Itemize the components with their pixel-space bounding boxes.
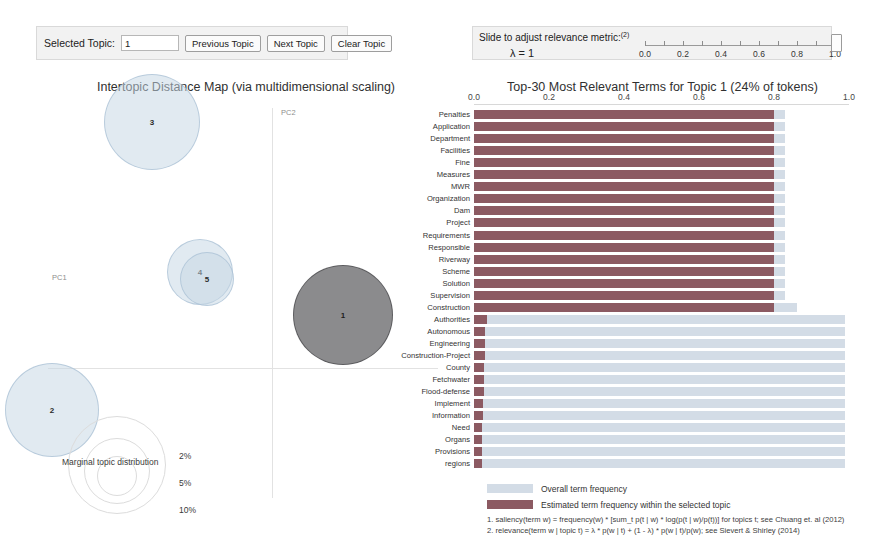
previous-topic-button[interactable]: Previous Topic xyxy=(185,35,261,52)
barchart-row[interactable]: Solution xyxy=(474,279,849,288)
relevance-slider[interactable]: 0.0 0.2 0.4 0.6 0.8 1.0 xyxy=(645,45,835,46)
barchart-row[interactable]: Engineering xyxy=(474,339,849,348)
barchart-term-label[interactable]: MWR xyxy=(451,182,470,191)
barchart-row[interactable]: Provisions xyxy=(474,447,849,456)
relevance-instruction-label: Slide to adjust relevance metric:(2) xyxy=(479,31,629,43)
barchart-row[interactable]: Organization xyxy=(474,194,849,203)
marginal-topic-distribution-label: Marginal topic distribution xyxy=(62,457,158,467)
barchart-term-label[interactable]: Engineering xyxy=(429,339,470,348)
barchart-row[interactable]: Authorities xyxy=(474,315,849,324)
barchart-term-label[interactable]: Autonomous xyxy=(427,327,470,336)
barchart-row[interactable]: Penalties xyxy=(474,110,849,119)
bar-overall xyxy=(474,459,845,468)
topic-bubble-5[interactable]: 5 xyxy=(180,252,234,306)
barchart-row[interactable]: Information xyxy=(474,411,849,420)
barchart-term-label[interactable]: Information xyxy=(432,411,470,420)
barchart-row[interactable]: Construction-Project xyxy=(474,351,849,360)
barchart-term-label[interactable]: Need xyxy=(452,423,470,432)
topic-bubble-3[interactable]: 3 xyxy=(104,74,200,170)
relevance-instruction-text: Slide to adjust relevance metric: xyxy=(479,32,621,43)
bar-estimated xyxy=(474,182,774,191)
barchart-row[interactable]: Responsible xyxy=(474,243,849,252)
barchart-row[interactable]: Organs xyxy=(474,435,849,444)
barchart-term-label[interactable]: regions xyxy=(445,459,470,468)
marginal-size-label-10: 10% xyxy=(179,505,196,515)
barchart-term-label[interactable]: Authorities xyxy=(434,315,470,324)
barchart-row[interactable]: Application xyxy=(474,122,849,131)
barchart-term-label[interactable]: Organization xyxy=(427,194,470,203)
bar-estimated xyxy=(474,218,774,227)
barchart-term-label[interactable]: Scheme xyxy=(442,267,470,276)
barchart-row[interactable]: County xyxy=(474,363,849,372)
slider-tick-0 xyxy=(645,41,646,46)
barchart-x-axis xyxy=(474,104,849,105)
selected-topic-input[interactable] xyxy=(121,35,179,51)
bar-overall xyxy=(474,447,845,456)
barchart-tick-2: 0.4 xyxy=(618,92,630,102)
bar-estimated xyxy=(474,399,483,408)
barchart-term-label[interactable]: Implement xyxy=(435,399,470,408)
barchart-row[interactable]: Fetchwater xyxy=(474,375,849,384)
bar-estimated xyxy=(474,231,774,240)
barchart-term-label[interactable]: Responsible xyxy=(428,243,470,252)
barchart-row[interactable]: Department xyxy=(474,134,849,143)
barchart-term-label[interactable]: Construction xyxy=(427,303,470,312)
topic-bubble-1[interactable]: 1 xyxy=(293,265,393,365)
barchart-term-label[interactable]: Facilities xyxy=(440,146,470,155)
barchart-term-label[interactable]: Application xyxy=(433,122,470,131)
slider-label-3: 0.6 xyxy=(753,49,765,59)
barchart-row[interactable]: Flood-defense xyxy=(474,387,849,396)
barchart-term-label[interactable]: Requirements xyxy=(423,231,470,240)
barchart-term-label[interactable]: Department xyxy=(430,134,470,143)
barchart-term-label[interactable]: Dam xyxy=(454,206,470,215)
barchart-row[interactable]: Requirements xyxy=(474,231,849,240)
barchart-row[interactable]: Construction xyxy=(474,303,849,312)
barchart-term-label[interactable]: Supervision xyxy=(430,291,470,300)
barchart-row[interactable]: Implement xyxy=(474,399,849,408)
barchart-row[interactable]: Riverway xyxy=(474,255,849,264)
bar-estimated xyxy=(474,387,484,396)
barchart-row[interactable]: Supervision xyxy=(474,291,849,300)
barchart-term-label[interactable]: Organs xyxy=(445,435,470,444)
barchart-term-label[interactable]: Measures xyxy=(437,170,470,179)
barchart-term-label[interactable]: Riverway xyxy=(439,255,470,264)
barchart-term-label[interactable]: County xyxy=(446,363,470,372)
barchart-term-label[interactable]: Flood-defense xyxy=(421,387,470,396)
barchart-term-label[interactable]: Penalties xyxy=(439,110,470,119)
barchart-bars: PenaltiesApplicationDepartmentFacilities… xyxy=(474,110,849,472)
barchart-legend: Overall term frequency Estimated term fr… xyxy=(487,482,730,514)
slider-tick-3 xyxy=(759,41,760,46)
bar-estimated xyxy=(474,122,774,131)
bar-estimated xyxy=(474,267,774,276)
barchart-row[interactable]: Dam xyxy=(474,206,849,215)
barchart-row[interactable]: MWR xyxy=(474,182,849,191)
barchart-row[interactable]: Autonomous xyxy=(474,327,849,336)
topic-bubble-label-1: 1 xyxy=(341,311,345,320)
barchart-term-label[interactable]: Solution xyxy=(443,279,470,288)
barchart-row[interactable]: Measures xyxy=(474,170,849,179)
barchart-term-label[interactable]: Provisions xyxy=(435,447,470,456)
bar-overall xyxy=(474,375,845,384)
bar-estimated xyxy=(474,255,774,264)
barchart-row[interactable]: Project xyxy=(474,218,849,227)
relevance-footnote-marker: (2) xyxy=(621,31,630,38)
bar-estimated xyxy=(474,351,485,360)
relevance-slider-handle[interactable] xyxy=(831,34,842,52)
legend-row-estimated: Estimated term frequency within the sele… xyxy=(487,498,730,511)
footnotes: 1. saliency(term w) = frequency(w) * [su… xyxy=(487,514,844,536)
pc2-axis-label: PC2 xyxy=(281,108,296,117)
barchart-row[interactable]: Fine xyxy=(474,158,849,167)
barchart-term-label[interactable]: Fine xyxy=(455,158,470,167)
bar-overall xyxy=(474,327,845,336)
clear-topic-button[interactable]: Clear Topic xyxy=(331,35,392,52)
bar-estimated xyxy=(474,146,774,155)
barchart-row[interactable]: regions xyxy=(474,459,849,468)
barchart-row[interactable]: Need xyxy=(474,423,849,432)
barchart-row[interactable]: Scheme xyxy=(474,267,849,276)
barchart-term-label[interactable]: Project xyxy=(446,218,470,227)
legend-row-overall: Overall term frequency xyxy=(487,482,730,495)
barchart-row[interactable]: Facilities xyxy=(474,146,849,155)
barchart-term-label[interactable]: Fetchwater xyxy=(432,375,470,384)
barchart-term-label[interactable]: Construction-Project xyxy=(401,351,470,360)
next-topic-button[interactable]: Next Topic xyxy=(267,35,325,52)
